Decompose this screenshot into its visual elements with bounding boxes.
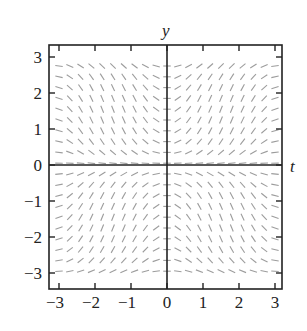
slope-segment	[153, 248, 160, 251]
slope-segment	[133, 106, 136, 113]
slope-segment	[241, 203, 244, 210]
slope-segment	[66, 259, 73, 262]
slope-segment	[208, 246, 212, 252]
slope-segment	[90, 106, 93, 113]
slope-segment	[131, 172, 138, 175]
slope-segment	[262, 214, 267, 219]
slope-segment	[261, 128, 267, 133]
slope-field-chart: −3−2−10123−3−2−10123 y t	[0, 0, 307, 331]
slope-segment	[229, 172, 235, 176]
slope-segment	[218, 150, 224, 155]
slope-segment	[90, 235, 93, 242]
slope-segment	[175, 226, 181, 230]
slope-segment	[98, 163, 105, 164]
slope-segment	[251, 85, 255, 91]
slope-segment	[153, 259, 160, 261]
slope-segment	[143, 117, 147, 123]
slope-segment	[174, 75, 181, 78]
slope-segment	[121, 150, 127, 155]
slope-segment	[251, 247, 256, 253]
slope-segment	[153, 226, 159, 230]
slope-segment	[120, 163, 127, 164]
plot-frame	[49, 45, 282, 289]
slope-segment	[101, 235, 104, 242]
slope-segment	[196, 150, 202, 154]
slope-segment	[196, 270, 203, 273]
slope-segment	[67, 75, 73, 79]
slope-segment	[240, 139, 245, 145]
slope-segment	[186, 139, 192, 144]
slope-segment	[79, 203, 83, 209]
slope-segment	[55, 97, 62, 99]
slope-segment	[152, 271, 159, 272]
slope-segment	[78, 85, 82, 91]
slope-segment	[122, 84, 125, 91]
slope-segment	[241, 225, 244, 232]
slope-segment	[111, 127, 114, 134]
slope-segment	[67, 117, 72, 122]
slope-segment	[261, 270, 268, 272]
tick-labels: −3−2−10123−3−2−10123	[24, 48, 279, 312]
slope-segment	[55, 249, 62, 251]
slope-segment	[153, 129, 159, 133]
slope-segment	[132, 247, 136, 253]
slope-segment	[262, 96, 267, 101]
slope-segment	[67, 96, 72, 101]
y-tick-label: −3	[24, 264, 42, 283]
slope-segment	[208, 192, 212, 199]
slope-segment	[99, 172, 105, 176]
slope-segment	[77, 64, 83, 68]
slope-segment	[241, 192, 245, 198]
slope-segment	[197, 193, 201, 199]
slope-segment	[89, 139, 94, 145]
slope-segment	[198, 203, 202, 210]
slope-segment	[186, 183, 192, 187]
slope-segment	[111, 138, 115, 144]
slope-segment	[133, 214, 136, 221]
slope-segment	[197, 74, 202, 80]
slope-segment	[133, 128, 137, 134]
slope-segment	[217, 163, 224, 164]
slope-segment	[219, 203, 222, 210]
slope-segment	[229, 182, 234, 188]
slope-segment	[133, 236, 137, 243]
slope-segment	[112, 106, 115, 113]
slope-segment	[122, 214, 125, 221]
slope-segment	[55, 66, 62, 67]
slope-segment	[262, 106, 267, 111]
slope-segment	[143, 139, 149, 144]
slope-segment	[271, 184, 278, 185]
slope-segment	[122, 139, 126, 145]
slope-segment	[133, 225, 136, 232]
slope-segment	[142, 183, 148, 187]
slope-segment	[219, 182, 224, 188]
slope-segment	[153, 65, 160, 67]
slope-segment	[101, 203, 104, 210]
slope-segment	[133, 84, 137, 90]
slope-segment	[251, 214, 255, 220]
slope-segment	[208, 74, 212, 80]
slope-segment	[240, 74, 244, 80]
slope-segment	[175, 215, 181, 219]
y-tick-label: −2	[24, 228, 42, 247]
slope-segment	[122, 235, 125, 242]
slope-segment	[218, 270, 225, 273]
slope-segment	[153, 151, 160, 153]
slope-segment	[77, 173, 84, 176]
y-tick-label: 3	[34, 48, 43, 67]
slope-segment	[209, 117, 212, 124]
slope-segment	[153, 118, 159, 122]
slope-segment	[209, 106, 212, 113]
slope-segment	[241, 95, 244, 102]
slope-segment	[132, 182, 137, 187]
slope-segment	[142, 270, 149, 272]
slope-segment	[78, 128, 82, 134]
slope-segment	[89, 74, 93, 80]
slope-segment	[110, 270, 117, 273]
slope-segment	[271, 216, 278, 218]
slope-segment	[67, 193, 73, 198]
slope-segment	[67, 106, 72, 111]
slope-segment	[132, 74, 137, 80]
slope-segment	[228, 163, 235, 164]
x-tick-label: 2	[235, 293, 244, 312]
